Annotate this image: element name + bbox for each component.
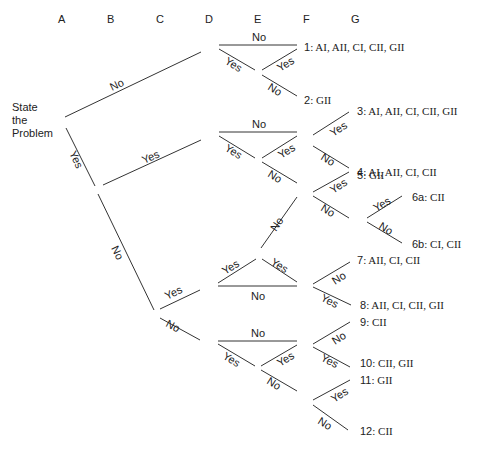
label-yes: Yes — [67, 149, 86, 171]
label-yes: Yes — [329, 385, 351, 405]
column-e: E — [254, 13, 261, 25]
edges — [65, 45, 402, 430]
label-no: No — [266, 168, 284, 186]
root-node: State the Problem — [12, 101, 53, 139]
root-line-1: State — [12, 101, 38, 113]
label-no: No — [265, 375, 283, 393]
label-yes: Yes — [220, 257, 242, 277]
label-no: No — [164, 317, 182, 334]
outcome-3: 3: AI, AII, CI, CII, GII — [357, 105, 458, 117]
column-g: G — [351, 13, 360, 25]
label-yes: Yes — [319, 291, 341, 310]
label-no: No — [377, 220, 395, 238]
label-no: No — [266, 81, 284, 99]
label-no: No — [108, 76, 126, 93]
label-no: No — [316, 415, 334, 433]
outcome-12: 12: CII — [360, 425, 393, 437]
outcome-10: 10: CII, GII — [360, 357, 414, 369]
label-yes: Yes — [223, 55, 245, 75]
column-b: B — [107, 13, 114, 25]
label-yes: Yes — [275, 349, 297, 369]
label-no: No — [252, 118, 266, 130]
label-yes: Yes — [140, 147, 162, 165]
column-headers: A B C D E F G — [58, 13, 360, 25]
label-no: No — [330, 329, 348, 347]
outcome-7: 7: AII, CI, CII — [357, 254, 421, 266]
outcome-6b: 6b: CI, CII — [412, 238, 462, 250]
outcome-11: 11: GII — [360, 374, 393, 386]
label-yes: Yes — [269, 256, 291, 276]
outcome-1: 1: AI, AII, CI, CII, GII — [304, 41, 405, 53]
label-no: No — [319, 151, 337, 169]
label-no: No — [319, 202, 337, 220]
label-no: No — [252, 31, 266, 43]
outcome-8: 8: AII, CI, CII, GII — [360, 299, 444, 311]
decision-tree-diagram: A B C D E F G State the Problem — [0, 0, 479, 450]
label-yes: Yes — [319, 351, 341, 370]
column-c: C — [156, 13, 164, 25]
label-no: No — [251, 327, 265, 339]
label-yes: Yes — [328, 119, 350, 139]
label-no: No — [330, 269, 348, 287]
label-no: No — [251, 290, 265, 302]
outcome-5: 5: GII — [357, 169, 385, 181]
label-yes: Yes — [275, 54, 297, 74]
label-yes: Yes — [276, 141, 298, 161]
label-yes: Yes — [221, 350, 243, 370]
label-yes: Yes — [371, 194, 393, 214]
outcome-9: 9: CII — [360, 316, 387, 328]
column-a: A — [58, 13, 66, 25]
outcomes: 1: AI, AII, CI, CII, GII 2: GII 3: AI, A… — [304, 41, 462, 437]
label-yes: Yes — [223, 142, 245, 162]
column-d: D — [205, 13, 213, 25]
column-f: F — [303, 13, 310, 25]
outcome-6a: 6a: CII — [412, 191, 445, 203]
root-line-3: Problem — [12, 127, 53, 139]
outcome-2: 2: GII — [304, 94, 332, 106]
label-yes: Yes — [328, 176, 350, 196]
root-line-2: the — [12, 114, 27, 126]
